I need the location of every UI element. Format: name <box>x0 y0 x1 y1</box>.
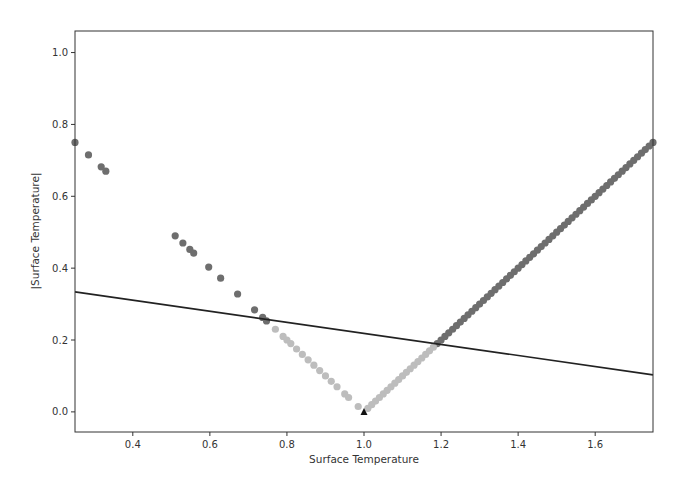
x-tick-label: 0.8 <box>279 439 295 450</box>
scatter-chart: 0.40.60.81.01.21.41.6 0.00.20.40.60.81.0… <box>0 0 690 483</box>
data-point <box>316 367 323 374</box>
x-tick-label: 0.4 <box>125 439 141 450</box>
data-point <box>293 345 300 352</box>
data-point <box>322 372 329 379</box>
y-tick-label: 1.0 <box>52 47 68 58</box>
data-point <box>179 239 186 246</box>
y-tick-label: 0.6 <box>52 191 68 202</box>
y-tick-label: 0.0 <box>52 406 68 417</box>
y-tick-label: 0.4 <box>52 263 68 274</box>
y-axis-ticks: 0.00.20.40.60.81.0 <box>52 47 75 417</box>
data-point <box>272 326 279 333</box>
x-tick-label: 1.0 <box>356 439 372 450</box>
y-tick-label: 0.8 <box>52 119 68 130</box>
x-axis-ticks: 0.40.60.81.01.21.41.6 <box>125 432 603 450</box>
data-point <box>355 403 362 410</box>
data-point <box>251 306 258 313</box>
data-point <box>205 263 212 270</box>
x-tick-label: 1.4 <box>510 439 526 450</box>
data-point <box>85 151 92 158</box>
data-point <box>102 168 109 175</box>
plot-area <box>75 31 653 432</box>
data-point <box>190 249 197 256</box>
y-axis-label: |Surface Temperature| <box>29 173 42 290</box>
data-point <box>333 383 340 390</box>
data-point <box>345 394 352 401</box>
data-point <box>328 378 335 385</box>
y-tick-label: 0.2 <box>52 335 68 346</box>
x-axis-label: Surface Temperature <box>309 453 419 465</box>
data-point <box>310 362 317 369</box>
data-point <box>234 290 241 297</box>
x-tick-label: 0.6 <box>202 439 218 450</box>
data-point <box>217 275 224 282</box>
data-point <box>305 356 312 363</box>
x-tick-label: 1.6 <box>587 439 603 450</box>
data-point <box>430 344 437 351</box>
data-point <box>299 351 306 358</box>
data-point <box>287 340 294 347</box>
x-tick-label: 1.2 <box>433 439 449 450</box>
data-point <box>172 232 179 239</box>
